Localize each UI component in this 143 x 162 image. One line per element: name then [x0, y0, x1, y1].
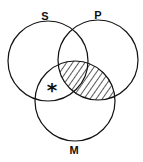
asterisk-mark: * — [47, 78, 58, 102]
label-m: M — [69, 144, 78, 156]
label-s: S — [41, 10, 48, 22]
venn-diagram: S P M * — [0, 0, 143, 162]
label-p: P — [94, 9, 101, 21]
